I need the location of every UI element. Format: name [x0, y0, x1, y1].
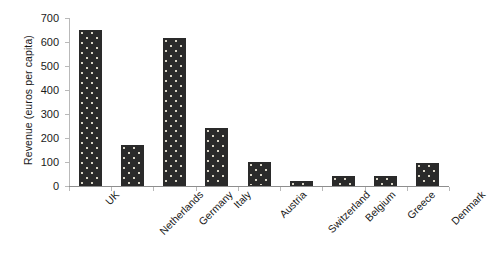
- y-tick-label: 400: [28, 85, 64, 96]
- bars-layer: [69, 18, 449, 186]
- bar: [79, 30, 102, 186]
- y-tick-label: 700: [28, 13, 64, 24]
- bar: [374, 176, 397, 186]
- x-axis-tick-label-group: UKNetherlandsGermanyItalyAustriaSwitzerl…: [69, 189, 455, 255]
- y-tick-label: 500: [28, 61, 64, 72]
- y-tick-label: 200: [28, 133, 64, 144]
- y-tick-label: 300: [28, 109, 64, 120]
- bar: [248, 162, 271, 186]
- y-tick-label: 600: [28, 37, 64, 48]
- x-tick-label: Greece: [405, 189, 437, 221]
- bar: [290, 181, 313, 186]
- bar: [205, 128, 228, 186]
- plot-area: [69, 18, 449, 186]
- y-tick-label: 0: [28, 181, 64, 192]
- bar: [416, 163, 439, 186]
- x-tick-label: Italy: [231, 189, 252, 210]
- x-tick-label: Netherlands: [158, 189, 206, 237]
- bar: [163, 38, 186, 186]
- x-tick-label: Denmark: [449, 189, 487, 227]
- y-axis-tick-label-group: 700 600 500 400 300 200 100 0: [28, 18, 64, 186]
- y-tick-label: 100: [28, 157, 64, 168]
- bar: [332, 176, 355, 186]
- bar: [121, 145, 144, 186]
- x-tick-label: Austria: [278, 189, 309, 220]
- x-axis-line: [69, 186, 449, 187]
- x-tick-label: UK: [103, 189, 121, 207]
